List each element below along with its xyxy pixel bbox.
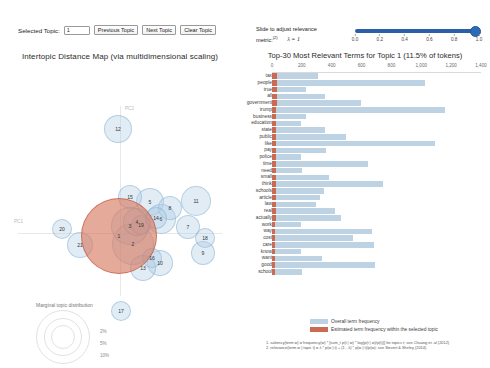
bar-topic-frequency [272, 222, 275, 227]
term-row[interactable]: want [240, 255, 490, 262]
term-row[interactable]: care [240, 242, 490, 249]
term-label[interactable]: people [238, 80, 272, 86]
term-label[interactable]: work [238, 222, 272, 228]
bar-overall-frequency [272, 73, 318, 78]
term-row[interactable]: cost [240, 235, 490, 242]
top-terms-barchart-panel: Top-30 Most Relevant Terms for Topic 1 (… [240, 44, 490, 333]
term-label[interactable]: cost [238, 235, 272, 241]
term-row[interactable]: way [240, 228, 490, 235]
term-label[interactable]: care [238, 242, 272, 248]
term-label[interactable]: business [238, 114, 272, 120]
term-row[interactable]: government [240, 100, 490, 107]
term-row[interactable]: people [240, 80, 490, 87]
term-label[interactable]: know [238, 249, 272, 255]
term-label[interactable]: public [238, 134, 272, 140]
term-label[interactable]: state [238, 127, 272, 133]
bar-topic-frequency [272, 168, 276, 173]
term-label[interactable]: all [238, 93, 272, 99]
topic-bubble-label-21: 21 [77, 242, 83, 248]
term-row[interactable]: true [240, 87, 490, 94]
bar-overall-frequency [272, 181, 383, 186]
bar-overall-frequency [272, 168, 302, 173]
term-row[interactable]: good [240, 262, 490, 269]
bar-overall-frequency [272, 202, 316, 207]
mds-axis-label-pc2: PC2 [125, 106, 134, 111]
bar-topic-frequency [272, 262, 275, 267]
topic-bubble-label-7: 7 [187, 224, 190, 230]
term-row[interactable]: article [240, 195, 490, 202]
term-label[interactable]: law [238, 201, 272, 207]
term-label[interactable]: government [238, 100, 272, 106]
term-row[interactable]: need [240, 168, 490, 175]
term-row[interactable]: think [240, 181, 490, 188]
bar-overall-frequency [272, 249, 301, 254]
term-row[interactable]: small [240, 174, 490, 181]
term-row[interactable]: work [240, 222, 490, 229]
clear-topic-button[interactable]: Clear Topic [180, 25, 216, 35]
term-row[interactable]: public [240, 134, 490, 141]
term-row[interactable]: schools [240, 188, 490, 195]
term-row[interactable]: school [240, 269, 490, 276]
term-label[interactable]: tax [238, 73, 272, 79]
term-row[interactable]: business [240, 114, 490, 121]
term-row[interactable]: tax [240, 73, 490, 80]
term-row[interactable]: all [240, 93, 490, 100]
topic-bubble-label-3: 3 [129, 223, 132, 229]
term-row[interactable]: police [240, 154, 490, 161]
bar-overall-frequency [272, 229, 372, 234]
term-row[interactable]: time [240, 161, 490, 168]
bar-overall-frequency [272, 94, 325, 99]
term-label[interactable]: need [238, 168, 272, 174]
term-row[interactable]: actually [240, 215, 490, 222]
selected-topic-input[interactable] [64, 26, 90, 35]
term-label[interactable]: way [238, 228, 272, 234]
x-tick-200: 200 [298, 63, 306, 68]
term-label[interactable]: real [238, 208, 272, 214]
topic-bubble-label-16: 16 [149, 255, 155, 261]
legend-entry: Overall term frequency [310, 318, 380, 325]
term-row[interactable]: real [240, 208, 490, 215]
x-tick-800: 800 [388, 63, 396, 68]
term-label[interactable]: think [238, 181, 272, 187]
term-label[interactable]: good [238, 262, 272, 268]
topic-bubble-label-17: 17 [118, 308, 124, 314]
selected-topic-label: Selected Topic: [18, 27, 60, 34]
term-label[interactable]: want [238, 255, 272, 261]
term-row[interactable]: education [240, 120, 490, 127]
term-label[interactable]: article [238, 195, 272, 201]
term-label[interactable]: schools [238, 188, 272, 194]
previous-topic-button[interactable]: Previous Topic [94, 25, 138, 35]
term-label[interactable]: police [238, 154, 272, 160]
bar-topic-frequency [272, 242, 275, 247]
term-row[interactable]: pay [240, 147, 490, 154]
bar-overall-frequency [272, 195, 320, 200]
term-label[interactable]: like [238, 141, 272, 147]
term-row[interactable]: trump [240, 107, 490, 114]
term-label[interactable]: trump [238, 107, 272, 113]
bar-overall-frequency [272, 148, 326, 153]
term-label[interactable]: true [238, 87, 272, 93]
x-tick-1,400: 1,400 [475, 63, 487, 68]
mtd-title: Marginal topic distribution [36, 302, 93, 308]
term-row[interactable]: know [240, 249, 490, 256]
topic-bubble-label-13: 13 [140, 265, 146, 271]
term-row[interactable]: state [240, 127, 490, 134]
bar-topic-frequency [272, 161, 276, 166]
topic-bubble-label-5: 5 [149, 199, 152, 205]
slider-label-line1: Slide to adjust relevance [256, 26, 317, 32]
bar-topic-frequency [272, 73, 277, 78]
term-label[interactable]: education [238, 120, 272, 126]
term-label[interactable]: time [238, 161, 272, 167]
bar-topic-frequency [272, 134, 276, 139]
next-topic-button[interactable]: Next Topic [142, 25, 176, 35]
term-label[interactable]: actually [238, 215, 272, 221]
bar-overall-frequency [272, 114, 306, 119]
slider-rail[interactable] [355, 29, 475, 33]
mds-plot[interactable]: PC2 PC1 12345678910111213141516171819202… [0, 44, 240, 333]
term-label[interactable]: small [238, 174, 272, 180]
term-row[interactable]: law [240, 201, 490, 208]
term-label[interactable]: school [238, 269, 272, 275]
legend-entry: Estimated term frequency within the sele… [310, 326, 438, 333]
term-label[interactable]: pay [238, 147, 272, 153]
term-row[interactable]: like [240, 141, 490, 148]
